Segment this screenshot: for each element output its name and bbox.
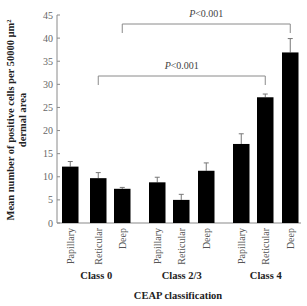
bar-papillary	[233, 144, 250, 223]
group-label: Class 2/3	[162, 270, 202, 281]
y-tick-label: 45	[43, 10, 53, 21]
y-axis: 051015202530354045	[43, 10, 60, 229]
bar-reticular	[257, 97, 274, 223]
y-tick-label: 5	[48, 194, 53, 205]
category-label: Deep	[285, 228, 296, 249]
y-tick-label: 0	[48, 218, 53, 229]
category-label: Reticular	[93, 227, 104, 264]
bar-papillary	[149, 182, 166, 223]
y-axis-title: Mean number of positive cells per 50000 …	[5, 19, 28, 220]
bar-chart: Mean number of positive cells per 50000 …	[0, 0, 307, 306]
category-label: Deep	[117, 228, 128, 249]
y-tick-label: 10	[43, 171, 53, 182]
bar-reticular	[173, 200, 190, 223]
p-value-label: P<0.001	[164, 60, 199, 71]
x-axis-title: CEAP classification	[134, 290, 223, 301]
group-labels: Class 0Class 2/3Class 4	[80, 270, 282, 281]
category-label: Papillary	[65, 228, 76, 264]
y-tick-label: 25	[43, 102, 53, 113]
y-tick-label: 30	[43, 79, 53, 90]
y-tick-label: 15	[43, 148, 53, 159]
significance-bracket	[122, 24, 290, 33]
category-label: Reticular	[176, 227, 187, 264]
y-axis-title-line2: dermal area	[17, 92, 28, 147]
bar-deep	[114, 189, 131, 223]
bar-deep	[198, 171, 215, 223]
y-tick-label: 20	[43, 125, 53, 136]
significance-brackets: P<0.001P<0.001	[98, 8, 290, 85]
bar-papillary	[62, 167, 79, 223]
category-label: Papillary	[236, 228, 247, 264]
p-value-label: P<0.001	[188, 8, 223, 19]
y-axis-title-line1: Mean number of positive cells per 50000 …	[5, 19, 16, 220]
group-label: Class 4	[250, 270, 283, 281]
significance-bracket	[98, 76, 265, 85]
category-label: Reticular	[260, 227, 271, 264]
bar-reticular	[90, 178, 107, 223]
y-tick-label: 40	[43, 33, 53, 44]
category-labels: PapillaryReticularDeepPapillaryReticular…	[65, 227, 296, 264]
bar-deep	[282, 52, 299, 223]
category-label: Papillary	[152, 228, 163, 264]
group-label: Class 0	[80, 270, 112, 281]
y-tick-label: 35	[43, 56, 53, 67]
category-label: Deep	[201, 228, 212, 249]
